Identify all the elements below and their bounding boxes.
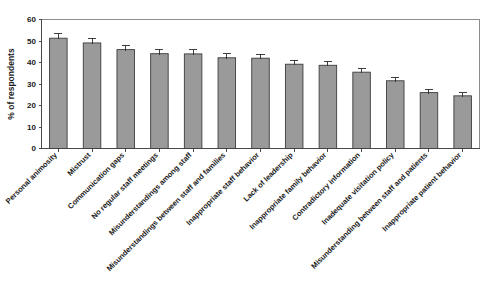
bar-group xyxy=(218,54,236,149)
chart-canvas: 0102030405060% of respondentsPersonal an… xyxy=(0,0,493,307)
bar-group xyxy=(387,77,405,148)
bar-2 xyxy=(83,43,101,149)
bar-12 xyxy=(420,93,438,149)
x-category-label-1: Personal animosity xyxy=(4,150,60,206)
bar-chart-figure: 0102030405060% of respondentsPersonal an… xyxy=(0,0,493,307)
bar-group xyxy=(319,61,337,148)
bar-11 xyxy=(387,81,405,149)
x-category-label-4: No regular staff meetings xyxy=(90,151,160,221)
bar-group xyxy=(285,60,303,148)
bar-6 xyxy=(218,58,236,149)
bar-9 xyxy=(319,65,337,148)
bar-group xyxy=(83,38,101,148)
bar-1 xyxy=(50,38,68,148)
bar-group xyxy=(252,54,270,148)
y-tick-label: 40 xyxy=(27,58,36,67)
y-tick-label: 60 xyxy=(27,15,36,24)
bar-group xyxy=(117,45,135,148)
y-tick-label: 0 xyxy=(32,144,37,153)
y-tick-label: 10 xyxy=(27,123,36,132)
bar-8 xyxy=(285,64,303,148)
bar-13 xyxy=(454,96,472,149)
bar-group xyxy=(353,69,371,149)
bar-group xyxy=(184,50,202,149)
bar-4 xyxy=(151,54,169,149)
bar-group xyxy=(151,49,169,148)
x-category-label-12: Misunderstanding between staff and patie… xyxy=(309,151,429,271)
y-tick-label: 20 xyxy=(27,101,36,110)
x-category-label-2: Mistrust xyxy=(65,150,92,177)
x-category-label-6: Misunderstandings between staff and fami… xyxy=(105,151,227,273)
bar-group xyxy=(420,89,438,148)
x-category-label-3: Communication gaps xyxy=(66,151,126,211)
bar-7 xyxy=(252,58,270,148)
y-tick-label: 50 xyxy=(27,37,36,46)
bar-group xyxy=(454,93,472,149)
y-axis-title: % of respondents xyxy=(6,48,16,120)
bar-5 xyxy=(184,54,202,149)
bar-10 xyxy=(353,72,371,148)
y-tick-label: 30 xyxy=(27,80,36,89)
x-category-label-10: Contradictory information xyxy=(290,150,362,222)
bar-3 xyxy=(117,50,135,149)
bar-group xyxy=(50,33,68,148)
